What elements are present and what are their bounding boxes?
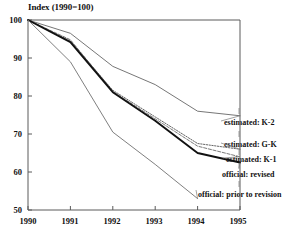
- chart-figure: Index (1990=100) 100 90 80 70 60 50 1990…: [0, 0, 305, 236]
- chart-series-lines: [28, 20, 240, 199]
- series-line-4: [28, 20, 198, 199]
- leader-line-1: [221, 143, 240, 149]
- leader-line-2: [223, 157, 240, 158]
- axis-frame: [28, 20, 240, 210]
- series-line-1: [28, 20, 240, 149]
- leader-line-0: [221, 116, 240, 121]
- chart-plot-area: [0, 0, 305, 236]
- series-line-3: [28, 20, 240, 163]
- chart-axes: [28, 20, 240, 210]
- series-line-2: [28, 20, 240, 157]
